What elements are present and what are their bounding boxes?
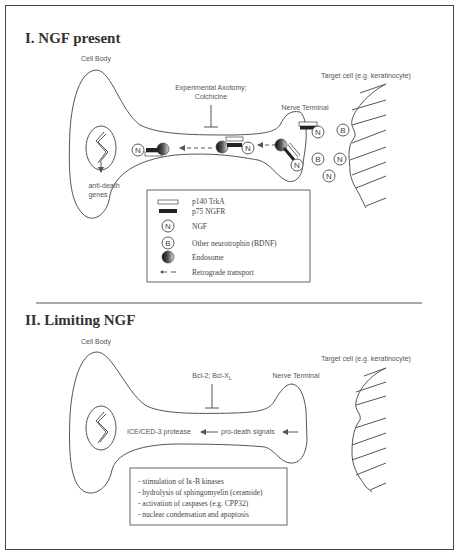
svg-text:B: B <box>315 155 320 164</box>
section1-inhibitor-label-2: Colchicine <box>195 93 227 100</box>
section2-inhibitor-label: Bcl-2; Bcl-XL <box>192 372 232 381</box>
section2-target-cell-label: Target cell (e.g. keratinocyte) <box>321 355 411 363</box>
ngf-circle-icon: N <box>245 144 251 153</box>
dna-icon-2 <box>96 412 108 443</box>
section1-nerve-terminal-label: Nerve Terminal <box>282 104 329 111</box>
ngf-circle-icon: N <box>135 146 141 155</box>
anti-death-label-1: anti-death <box>88 182 119 189</box>
section2-title: II. Limiting NGF <box>25 312 135 328</box>
event-item: - activation of caspases (e.g. CPP32) <box>138 499 249 508</box>
diagram-canvas: I. NGF present Cell Body Experimental Ax… <box>0 0 461 559</box>
svg-text:N: N <box>326 172 332 181</box>
endosome-terminal: N <box>275 139 303 171</box>
svg-text:B: B <box>165 239 170 248</box>
legend-label-ngf: NGF <box>192 222 207 231</box>
ngf-circle-icon: N <box>315 128 321 137</box>
open-bar-icon <box>158 200 178 204</box>
svg-text:N: N <box>165 222 171 231</box>
section2-nerve-terminal-label: Nerve Terminal <box>273 372 320 379</box>
legend-label-retrograde: Retrograde transport <box>192 268 255 277</box>
endosome-axon: N <box>216 137 254 154</box>
filled-bar-icon <box>159 209 177 213</box>
event-item: - nuclear condensation and apoptosis <box>138 510 249 519</box>
endosome-icon <box>162 251 174 263</box>
event-item: - hydrolysis of sphingomyelin (ceramide) <box>138 488 263 497</box>
section1-cell-body-label: Cell Body <box>81 55 111 63</box>
target-cell-hatch-2 <box>352 368 386 490</box>
svg-text:B: B <box>340 126 345 135</box>
legend-label-p75: p75 NGFR <box>192 207 225 216</box>
section1-inhibitor-label-1: Experimental Axotomy; <box>175 84 247 92</box>
event-item: - stimulation of Iκ-B kinases <box>138 477 224 486</box>
signals-label: pro-death signals <box>221 428 275 436</box>
section1-target-cell-label: Target cell (e.g. keratinocyte) <box>321 72 411 80</box>
legend-label-bdnf: Other neurotrophin (BDNF) <box>192 239 277 248</box>
dna-icon-1 <box>96 132 108 163</box>
target-cell-1 <box>349 84 386 208</box>
surface-receptor-1: N <box>299 122 324 138</box>
endosome-cellbody: N <box>132 143 169 156</box>
nucleus-2 <box>86 406 116 450</box>
legend-label-trka: p140 TrkA <box>192 197 225 206</box>
section2-cell-body-label: Cell Body <box>81 338 111 346</box>
svg-text:N: N <box>337 155 343 164</box>
protease-label: ICE/CED-3 protease <box>127 428 191 436</box>
ngf-circle-icon: N <box>294 161 300 170</box>
anti-death-label-2: genes <box>88 191 108 199</box>
target-cell-2 <box>352 368 386 492</box>
legend-label-endosome: Endosome <box>192 253 224 262</box>
section1-title: I. NGF present <box>25 30 120 46</box>
